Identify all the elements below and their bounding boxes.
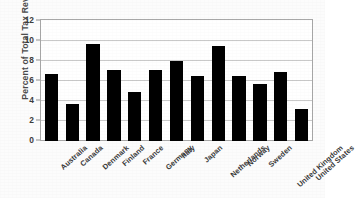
- x-axis-label-slot: Australia: [41, 142, 62, 198]
- bar: [149, 70, 162, 141]
- bar: [107, 70, 120, 141]
- bar-slot: [249, 20, 270, 141]
- y-axis-tick-label: 12: [2, 16, 34, 25]
- bar-slot: [229, 20, 250, 141]
- x-axis-label-slot: Japan: [187, 142, 208, 198]
- x-axis-label-slot: Sweden: [249, 142, 270, 198]
- bar-slot: [124, 20, 145, 141]
- y-axis-tick-label: 2: [2, 116, 34, 125]
- x-axis-label-slot: United States: [291, 142, 312, 198]
- bar: [86, 44, 99, 141]
- x-axis-label-slot: Finland: [104, 142, 125, 198]
- bar-slot: [270, 20, 291, 141]
- y-axis-tick-labels: 024681012: [0, 19, 40, 141]
- y-axis-tick-label: 0: [2, 136, 34, 145]
- bar: [170, 61, 183, 141]
- x-axis-label-slot: Netherlands: [208, 142, 229, 198]
- y-axis-tick-label: 6: [2, 76, 34, 85]
- bar-slot: [104, 20, 125, 141]
- y-axis-tick-label: 4: [2, 96, 34, 105]
- bar: [191, 76, 204, 141]
- bar: [232, 76, 245, 141]
- bar: [295, 109, 308, 141]
- bar-slot: [83, 20, 104, 141]
- y-axis-tick-label: 8: [2, 56, 34, 65]
- bar-slot: [166, 20, 187, 141]
- x-axis-tick-labels: AustraliaCanadaDenmarkFinlandFranceGerma…: [41, 142, 312, 198]
- bar: [66, 104, 79, 141]
- bar-slot: [62, 20, 83, 141]
- x-axis-label-slot: Italy: [166, 142, 187, 198]
- x-axis-label-slot: France: [124, 142, 145, 198]
- x-axis-label-slot: Germany: [145, 142, 166, 198]
- x-axis-label-slot: Norway: [229, 142, 250, 198]
- x-axis-label-slot: Canada: [62, 142, 83, 198]
- bar: [128, 92, 141, 141]
- bar: [253, 84, 266, 141]
- bar-series: [41, 20, 312, 141]
- x-axis-label-slot: United Kingdom: [270, 142, 291, 198]
- bar-slot: [145, 20, 166, 141]
- bar-slot: [208, 20, 229, 141]
- x-axis-label-slot: Denmark: [83, 142, 104, 198]
- bar: [212, 46, 225, 141]
- bar: [45, 74, 58, 141]
- bar-slot: [187, 20, 208, 141]
- bar-slot: [291, 20, 312, 141]
- bar: [274, 72, 287, 141]
- y-axis-tick-label: 10: [2, 36, 34, 45]
- bar-slot: [41, 20, 62, 141]
